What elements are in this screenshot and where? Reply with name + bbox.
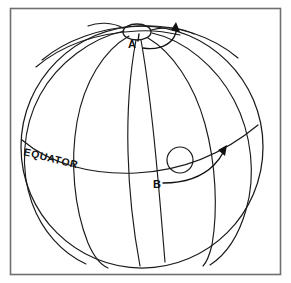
- label-equator: EQUATOR: [23, 145, 80, 170]
- figure-canvas: A B EQUATOR: [0, 0, 291, 283]
- meridian-2: [74, 36, 129, 268]
- label-a: A: [128, 38, 136, 50]
- label-b: B: [153, 178, 161, 190]
- polar-latitude-arc-left: [88, 23, 123, 28]
- meridian-4: [141, 40, 165, 262]
- globe-diagram-svg: A B EQUATOR: [0, 0, 291, 283]
- spot-b-circle: [167, 147, 193, 173]
- meridian-5: [148, 38, 215, 266]
- meridian-3: [128, 40, 140, 266]
- meridian-6: [152, 33, 251, 265]
